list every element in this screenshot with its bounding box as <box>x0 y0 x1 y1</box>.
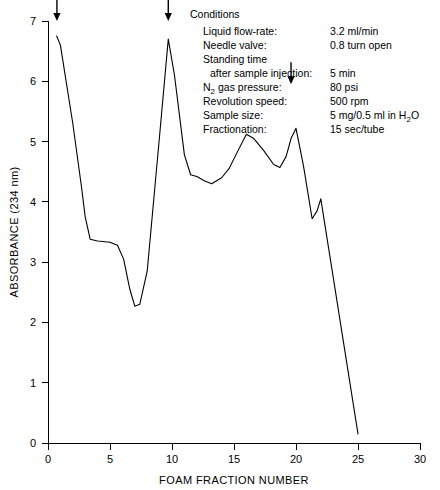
arrow-down-icon <box>53 0 60 21</box>
x-tick-label-10: 10 <box>166 453 178 465</box>
y-tick-label-3: 3 <box>30 256 36 268</box>
x-tick-label-20: 20 <box>290 453 302 465</box>
foam-fractionation-chart-figure: 7 6 5 4 3 2 1 0 0 5 10 15 20 25 30 <box>0 0 440 490</box>
x-axis-title: FOAM FRACTION NUMBER <box>159 474 309 486</box>
condition-value-after-sample-injection: 5 min <box>330 67 356 79</box>
y-tick-label-6: 6 <box>30 75 36 87</box>
x-tick-label-5: 5 <box>107 453 113 465</box>
condition-value-fractionation: 15 sec/tube <box>330 123 384 135</box>
condition-value-needle-valve: 0.8 turn open <box>330 39 392 51</box>
y-tick-label-0: 0 <box>30 437 36 449</box>
condition-label-fractionation: Fractionation: <box>203 123 267 135</box>
y-axis-tick-labels: 7 6 5 4 3 2 1 0 <box>30 15 36 449</box>
arrow-down-icon <box>165 0 172 21</box>
n2-label-suffix: gas pressure: <box>215 81 282 93</box>
condition-label-standing-time: Standing time <box>203 53 267 65</box>
condition-label-after-sample-injection: after sample injection: <box>210 67 312 79</box>
condition-value-n2-gas-pressure: 80 psi <box>330 81 358 93</box>
sample-size-value-suffix: O <box>411 109 419 121</box>
n2-label-prefix: N <box>203 81 211 93</box>
y-tick-label-7: 7 <box>30 15 36 27</box>
x-tick-label-25: 25 <box>352 453 364 465</box>
condition-label-sample-size: Sample size: <box>203 109 263 121</box>
y-tick-label-2: 2 <box>30 316 36 328</box>
condition-label-liquid-flow-rate: Liquid flow-rate: <box>203 25 277 37</box>
y-tick-label-1: 1 <box>30 377 36 389</box>
x-axis-tick-labels: 0 5 10 15 20 25 30 <box>45 453 426 465</box>
x-tick-label-30: 30 <box>414 453 426 465</box>
y-axis-ticks <box>42 21 48 443</box>
y-tick-label-5: 5 <box>30 136 36 148</box>
condition-value-revolution-speed: 500 rpm <box>330 95 369 107</box>
condition-value-sample-size: 5 mg/0.5 ml in H2O <box>330 109 419 124</box>
x-axis-ticks <box>48 443 420 450</box>
conditions-panel: Conditions Liquid flow-rate: 3.2 ml/min … <box>190 8 419 135</box>
x-tick-label-0: 0 <box>45 453 51 465</box>
conditions-heading: Conditions <box>190 8 240 20</box>
y-axis-title: ABSORBANCE (234 nm) <box>8 166 20 297</box>
condition-value-liquid-flow-rate: 3.2 ml/min <box>330 25 379 37</box>
absorbance-line-chart: 7 6 5 4 3 2 1 0 0 5 10 15 20 25 30 <box>0 0 440 490</box>
sample-size-value-prefix: 5 mg/0.5 ml in H <box>330 109 406 121</box>
condition-label-revolution-speed: Revolution speed: <box>203 95 287 107</box>
condition-label-n2-gas-pressure: N2 gas pressure: <box>203 81 282 96</box>
x-tick-label-15: 15 <box>228 453 240 465</box>
y-tick-label-4: 4 <box>30 196 36 208</box>
condition-label-needle-valve: Needle valve: <box>203 39 267 51</box>
